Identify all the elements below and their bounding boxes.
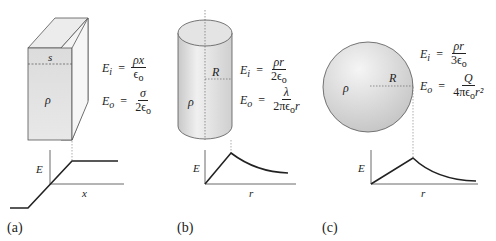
caption-c: (c) <box>322 220 338 236</box>
eq-numerator: σ <box>138 87 148 101</box>
eq-fraction: ρr 3ϵo <box>449 40 469 69</box>
sphere-density-label: ρ <box>342 81 349 95</box>
slab-shape <box>28 18 88 140</box>
graph-c-ylabel: E <box>357 162 365 174</box>
figure-canvas: s ρ E x R ρ E r R ρ E r <box>0 0 496 241</box>
eq-numerator: ρr <box>452 40 466 54</box>
eq-sign: = <box>118 61 125 76</box>
eq-numerator: ρx <box>131 54 146 68</box>
cylinder-density-label: ρ <box>187 95 194 109</box>
graph-b-xlabel: r <box>249 187 254 199</box>
eq-numerator: ρr <box>272 56 286 70</box>
eq-denominator: 2ϵo <box>269 70 289 86</box>
graph-a-xlabel: x <box>81 187 87 199</box>
equation-b-inside: Ei = ρr 2ϵo <box>240 56 289 85</box>
eq-lhs-sub: o <box>109 99 114 110</box>
eq-fraction: Q 4πϵor² <box>451 72 485 101</box>
eq-lhs-sub: i <box>109 66 112 77</box>
sphere-shape <box>323 42 413 157</box>
eq-denominator: 2ϵo <box>133 101 153 117</box>
graph-a-ylabel: E <box>35 163 43 175</box>
graph-a <box>10 141 124 208</box>
eq-sign: = <box>436 47 443 62</box>
eq-lhs-sub: o <box>427 84 432 95</box>
eq-denominator: 3ϵo <box>449 54 469 70</box>
eq-denominator: ϵo <box>132 68 146 84</box>
eq-denominator: 4πϵor² <box>451 86 485 102</box>
equation-c-inside: Ei = ρr 3ϵo <box>420 40 469 69</box>
sphere-radius-label: R <box>388 71 397 85</box>
equation-a-outside: Eo = σ 2ϵo <box>102 87 153 116</box>
slab-thickness-label: s <box>48 51 52 63</box>
equation-c-outside: Eo = Q 4πϵor² <box>420 72 485 101</box>
graph-c-xlabel: r <box>421 187 426 199</box>
equation-a-inside: Ei = ρx ϵo <box>102 54 146 83</box>
graph-b <box>205 140 296 184</box>
eq-fraction: λ 2πϵor <box>271 86 302 115</box>
slab-density-label: ρ <box>44 93 51 107</box>
graph-b-ylabel: E <box>192 162 200 174</box>
eq-lhs-sub: i <box>427 52 430 63</box>
eq-sign: = <box>438 79 445 94</box>
eq-fraction: ρx ϵo <box>131 54 146 83</box>
equation-b-outside: Eo = λ 2πϵor <box>240 86 302 115</box>
eq-numerator: λ <box>282 86 291 100</box>
cylinder-shape <box>178 10 232 140</box>
cylinder-radius-label: R <box>211 65 220 79</box>
caption-a: (a) <box>7 220 23 236</box>
eq-lhs-sub: o <box>247 98 252 109</box>
eq-sign: = <box>258 93 265 108</box>
graph-c <box>371 150 478 184</box>
eq-denominator: 2πϵor <box>271 100 302 116</box>
caption-b: (b) <box>177 220 193 236</box>
eq-sign: = <box>256 63 263 78</box>
eq-fraction: σ 2ϵo <box>133 87 153 116</box>
eq-sign: = <box>120 94 127 109</box>
eq-numerator: Q <box>462 72 475 86</box>
eq-fraction: ρr 2ϵo <box>269 56 289 85</box>
eq-lhs-sub: i <box>247 68 250 79</box>
